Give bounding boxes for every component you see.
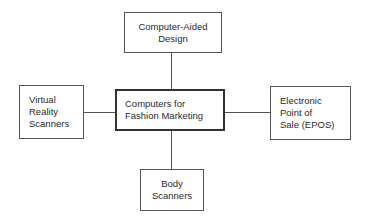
node-label-line: Sale (EPOS) <box>280 119 334 131</box>
connector-bottom <box>171 130 172 169</box>
node-label-line: Electronic <box>280 95 322 107</box>
node-computers-for-fashion-marketing: Computers for Fashion Marketing <box>115 89 225 131</box>
node-label-line: Body <box>161 178 183 190</box>
node-body-scanners: Body Scanners <box>140 169 204 211</box>
node-label-line: Reality <box>29 106 58 118</box>
node-virtual-reality-scanners: Virtual Reality Scanners <box>19 85 84 139</box>
node-label-line: Virtual <box>29 94 56 106</box>
node-computer-aided-design: Computer-Aided Design <box>124 12 222 53</box>
connector-left <box>83 112 115 113</box>
node-label-line: Point of <box>280 107 312 119</box>
node-label-line: Scanners <box>152 190 192 202</box>
node-label-line: Design <box>158 33 188 45</box>
node-label-line: Computer-Aided <box>138 21 207 33</box>
node-electronic-point-of-sale: Electronic Point of Sale (EPOS) <box>270 86 351 140</box>
node-label-line: Fashion Marketing <box>125 110 203 122</box>
connector-top <box>171 52 172 89</box>
node-label-line: Computers for <box>125 98 185 110</box>
node-label-line: Scanners <box>29 118 69 130</box>
connector-right <box>224 112 270 113</box>
